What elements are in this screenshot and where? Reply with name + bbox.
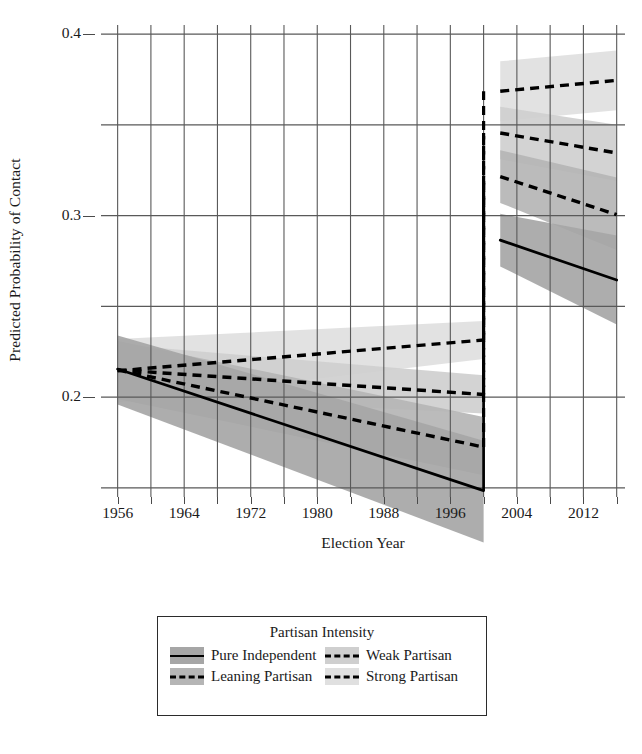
legend-swatch [170,668,204,685]
legend-item[interactable]: Pure Independent [170,647,321,664]
legend-item[interactable]: Leaning Partisan [170,668,321,685]
x-tick-label: 2012 [568,504,599,522]
x-tick-mark [550,497,551,504]
x-axis-title: Election Year [101,534,625,552]
legend-title: Partisan Intensity [158,617,486,641]
y-axis-title-text: Predicted Probability of Contact [6,158,24,361]
legend-label: Pure Independent [211,647,316,664]
x-axis-tick-labels: 19561964197219801988199620042012 [101,504,625,530]
x-tick-label: 1972 [235,504,266,522]
x-tick-mark [118,497,119,504]
legend-label: Leaning Partisan [211,668,312,685]
x-axis-title-text: Election Year [321,534,405,551]
x-tick-mark [450,497,451,504]
legend-line-sample [325,654,359,657]
legend-line-sample [170,675,204,678]
x-tick-mark [583,497,584,504]
x-tick-mark [217,497,218,504]
y-tick-mark [83,34,95,35]
legend-item[interactable]: Weak Partisan [325,647,476,664]
x-tick-mark [617,497,618,504]
legend-swatch [325,668,359,685]
x-tick-label: 1988 [368,504,399,522]
legend-label: Strong Partisan [366,668,458,685]
legend-swatch [325,647,359,664]
y-tick-mark [83,216,95,217]
legend-item[interactable]: Strong Partisan [325,668,476,685]
plot-area [101,25,625,497]
y-tick-mark [83,397,95,398]
x-tick-label: 1980 [302,504,333,522]
x-tick-mark [484,497,485,504]
legend-label: Weak Partisan [366,647,452,664]
legend-line-sample [170,655,204,657]
x-tick-label: 1964 [169,504,200,522]
y-axis-title: Predicted Probability of Contact [0,0,30,520]
legend-items: Pure IndependentWeak PartisanLeaning Par… [158,641,486,685]
x-tick-mark [184,497,185,504]
x-tick-mark [351,497,352,504]
x-tick-mark [284,497,285,504]
x-tick-mark [517,497,518,504]
x-tick-mark [251,497,252,504]
legend-line-sample [325,675,359,678]
y-tick-label: 0.3 [37,207,81,223]
x-tick-label: 1996 [435,504,466,522]
x-tick-mark [151,497,152,504]
y-axis-tick-labels: 0.20.30.4 [40,0,95,520]
legend-box: Partisan Intensity Pure IndependentWeak … [157,616,487,716]
y-tick-label: 0.2 [37,388,81,404]
x-tick-mark [417,497,418,504]
x-tick-mark [384,497,385,504]
y-tick-label: 0.4 [37,25,81,41]
chart-figure: Predicted Probability of Contact 0.20.30… [0,0,642,754]
plot-svg [101,25,625,497]
x-tick-label: 2004 [501,504,532,522]
x-tick-label: 1956 [102,504,133,522]
x-tick-mark [317,497,318,504]
legend-swatch [170,647,204,664]
